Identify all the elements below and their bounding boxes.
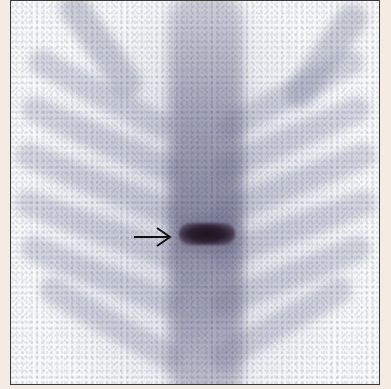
focal-uptake-hotspot	[179, 223, 235, 245]
scan-image-frame	[10, 0, 380, 385]
scan-noise	[11, 1, 379, 384]
arrow-right-icon	[133, 227, 173, 247]
